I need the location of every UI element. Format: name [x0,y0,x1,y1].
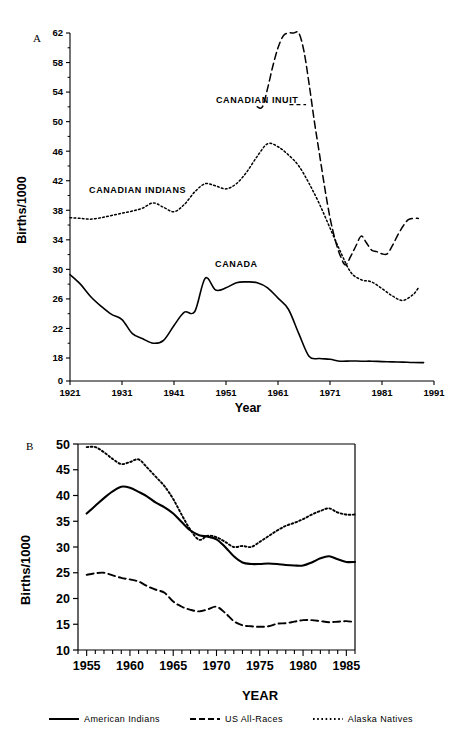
x-tick-label: 1985 [332,659,360,673]
y-tick-label: 62 [52,27,63,38]
y-tick-label: 25 [56,566,70,580]
y-tick-label: 22 [52,323,63,334]
dashed-line-swatch [190,714,220,724]
series-annotation-label: CANADA [215,259,258,269]
series-line [70,275,424,363]
series-line [87,447,355,547]
y-tick-label: 58 [52,57,63,68]
y-tick-label: 42 [52,175,63,186]
series-group-b [87,447,355,627]
y-tick-label: 10 [56,644,70,658]
x-tick-label: 1960 [116,659,144,673]
x-tick-label: 1951 [215,387,237,398]
x-tick-label: 1961 [267,387,289,398]
legend-item: Alaska Natives [313,714,413,724]
series-group-a [70,32,424,363]
chart-panel-b: B Births/1000 10152025303540455019551960… [0,420,462,742]
x-tick-label: 1971 [319,387,341,398]
x-tick-label: 1980 [289,659,317,673]
y-tick-label: 20 [56,592,70,606]
x-tick-label: 1991 [423,387,445,398]
panel-label-a: A [33,32,41,44]
chart-b-svg: B Births/1000 10152025303540455019551960… [0,420,462,742]
chart-panel-a: A Births/1000 01822263034384246505458621… [0,0,462,420]
y-tick-label: 15 [56,618,70,632]
x-tick-label: 1941 [163,387,185,398]
axes-a [66,33,434,385]
y-tick-label: 50 [56,438,70,452]
y-tick-label: 26 [52,293,63,304]
series-line [70,143,418,300]
x-tick-label: 1975 [246,659,274,673]
series-line [87,573,355,627]
legend-item: US All-Races [190,714,283,724]
panel-label-b: B [26,440,33,452]
x-tick-label: 1931 [111,387,133,398]
tick-labels-b: 1015202530354045501955196019651970197519… [56,438,360,674]
legend-label: Alaska Natives [348,714,413,724]
y-tick-label: 18 [52,352,63,363]
figure-container: A Births/1000 01822263034384246505458621… [0,0,462,742]
y-axis-label-a: Births/1000 [15,176,29,243]
y-tick-label: 30 [56,541,70,555]
legend-item: American Indians [49,714,160,724]
x-axis-label-a: Year [235,401,262,415]
series-annotation-label: CANADIAN INDIANS [89,185,186,195]
legend-label: US All-Races [225,714,283,724]
solid-line-swatch [49,714,79,724]
x-tick-label: 1965 [159,659,187,673]
y-tick-label: 45 [56,463,70,477]
y-tick-label: 50 [52,116,63,127]
x-tick-label: 1955 [73,659,101,673]
legend-label: American Indians [84,714,160,724]
y-tick-label: 35 [56,515,70,529]
x-tick-label: 1981 [371,387,393,398]
tick-labels-a: 0182226303438424650545862192119311941195… [52,27,445,398]
y-tick-label: 30 [52,264,63,275]
chart-legend: American Indians US All-Races Alaska Nat… [0,702,462,736]
axes-b [73,444,355,656]
y-tick-label: 46 [52,146,63,157]
dotted-line-swatch [313,714,343,724]
y-tick-label: 40 [56,489,70,503]
annotations-a: CANADIAN INUITCANADIAN INDIANSCANADA [89,95,306,269]
y-tick-label: 34 [52,234,63,245]
x-tick-label: 1921 [59,387,81,398]
chart-a-svg: A Births/1000 01822263034384246505458621… [0,0,462,420]
y-tick-label: 38 [52,205,63,216]
y-tick-label: 0 [58,375,63,386]
series-annotation-label: CANADIAN INUIT [216,95,298,105]
x-axis-label-b: YEAR [242,688,279,703]
series-line [87,487,355,566]
y-tick-label: 54 [52,86,63,97]
x-tick-label: 1970 [203,659,231,673]
y-axis-label-b: Births/1000 [18,535,33,605]
